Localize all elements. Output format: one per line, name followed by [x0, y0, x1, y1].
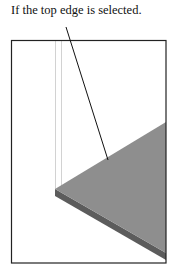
leader-line: [66, 27, 108, 160]
plate-figure: [0, 0, 178, 277]
plate-top-face[interactable]: [55, 122, 166, 253]
